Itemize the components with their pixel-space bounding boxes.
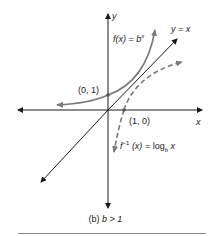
identity-line-label: y = x <box>171 25 190 34</box>
y-axis-label: y <box>112 12 117 21</box>
logarithm-label: f−1 (x) = logb x <box>120 140 175 153</box>
figure-caption: (b) b > 1 <box>0 214 211 224</box>
point-0-1-label: (0, 1) <box>78 86 99 95</box>
x-axis-label: x <box>196 118 201 127</box>
exponential-label: f(x) = bx <box>113 33 144 44</box>
point-1-0 <box>122 108 126 112</box>
point-0-1 <box>106 93 110 97</box>
point-1-0-label: (1, 0) <box>129 117 150 126</box>
graph-canvas <box>0 0 211 236</box>
logarithm-curve <box>114 62 182 152</box>
bottom-rule <box>18 233 206 234</box>
